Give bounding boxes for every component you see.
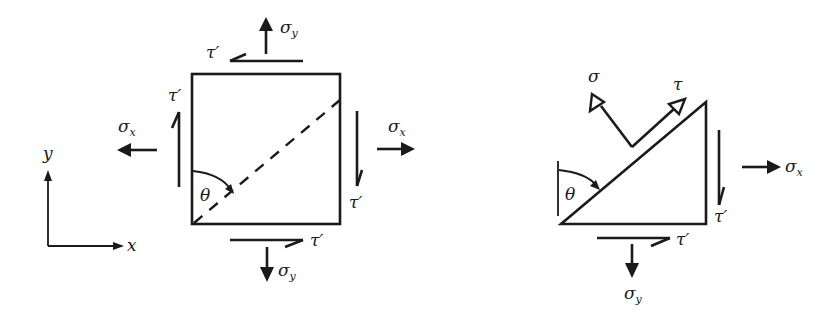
x-axis-label: x — [127, 235, 137, 255]
x-axis-arrowhead-icon — [113, 242, 124, 250]
sigma-x-left-label: σx — [118, 116, 137, 139]
sigma-normal-label: σ — [588, 66, 600, 86]
theta-label: θ — [200, 185, 210, 205]
theta-arc — [193, 171, 231, 190]
sigma-y-wedge-arrowhead-icon — [625, 263, 639, 278]
sigma-x-right-arrowhead-icon — [401, 142, 415, 156]
tau-shear-label: τ — [673, 74, 683, 94]
theta-arc-right — [559, 170, 596, 185]
square-element — [192, 74, 340, 224]
sigma-normal-arrow-shaft — [601, 106, 632, 147]
tau-left-label: τ′ — [168, 85, 181, 105]
theta-label-right: θ — [565, 184, 575, 204]
y-axis-label: y — [42, 143, 53, 163]
left-panel: y x θ σy τ′ τ′ σx τ′ σx — [42, 17, 415, 283]
sigma-x-wedge-label: σx — [785, 156, 804, 179]
coordinate-axes: y x — [42, 143, 137, 255]
tau-right-wedge-label: τ′ — [714, 206, 727, 226]
stress-element-diagram: y x θ σy τ′ τ′ σx τ′ σx — [0, 0, 839, 322]
sigma-y-top-label: σy — [280, 17, 299, 40]
tau-right-label: τ′ — [349, 192, 362, 212]
y-axis-arrowhead-icon — [44, 170, 52, 181]
sigma-y-bottom-label: σy — [278, 260, 297, 283]
tau-top-label: τ′ — [206, 42, 219, 62]
sigma-y-top-arrowhead-icon — [259, 17, 273, 31]
triangular-wedge — [561, 102, 706, 224]
sigma-y-bottom-arrowhead-icon — [260, 267, 274, 282]
tau-bottom-wedge-label: τ′ — [676, 229, 689, 249]
inclined-plane-dashed-line — [194, 100, 340, 223]
tau-bottom-label: τ′ — [310, 230, 323, 250]
sigma-y-wedge-label: σy — [624, 283, 643, 306]
tau-shear-arrow-shaft — [632, 108, 675, 147]
sigma-x-wedge-arrowhead-icon — [767, 160, 781, 174]
right-panel: θ σ τ τ′ σx τ′ σy — [558, 66, 804, 306]
sigma-x-right-label: σx — [388, 116, 407, 139]
sigma-x-left-arrowhead-icon — [117, 143, 131, 157]
